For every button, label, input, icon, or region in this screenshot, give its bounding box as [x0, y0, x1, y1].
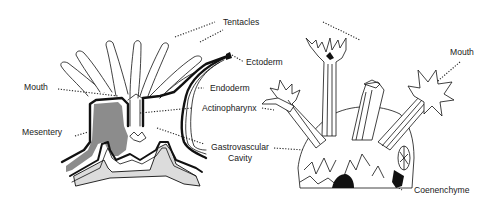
label-mouth-right: Mouth — [450, 48, 474, 57]
ectoderm-tip — [226, 52, 232, 60]
label-coenenchyme: Coenenchyme — [414, 186, 469, 195]
label-gastrovascular-line2: Cavity — [208, 154, 272, 163]
label-gastrovascular-cavity: Gastrovascular Cavity — [208, 143, 272, 162]
label-tentacles: Tentacles — [223, 18, 259, 27]
polyp-colony — [262, 38, 454, 188]
label-mesentery: Mesentery — [22, 128, 62, 137]
label-mouth-left: Mouth — [24, 83, 48, 92]
label-gastrovascular-line1: Gastrovascular — [208, 143, 272, 152]
label-actinopharynx: Actinopharynx — [202, 104, 256, 113]
label-endoderm: Endoderm — [210, 84, 250, 93]
polyp-cross-section — [61, 41, 232, 186]
left-tentacles — [61, 41, 202, 98]
label-ectoderm: Ectoderm — [246, 58, 283, 67]
